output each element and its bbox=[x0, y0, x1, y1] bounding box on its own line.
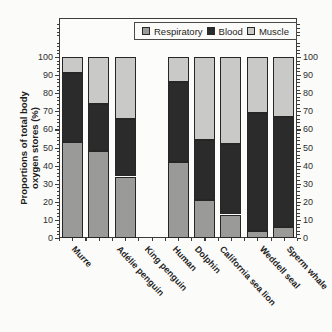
y-minor-tick bbox=[297, 169, 300, 170]
y-minor-tick bbox=[57, 133, 60, 134]
x-tick bbox=[244, 238, 245, 241]
y-minor-tick bbox=[297, 104, 300, 105]
bar-sperm-whale-segment-respiratory bbox=[273, 227, 294, 238]
legend-item-respiratory: Respiratory bbox=[142, 26, 203, 37]
y-major-tick-left-50 bbox=[55, 148, 59, 149]
y-minor-tick bbox=[297, 53, 300, 54]
y-minor-tick bbox=[297, 71, 300, 72]
bar-california-sea-lion-segment-muscle bbox=[220, 57, 241, 144]
bar-dolphin-segment-muscle bbox=[194, 57, 215, 140]
y-minor-tick bbox=[57, 50, 60, 51]
y-minor-tick bbox=[297, 173, 300, 174]
y-minor-tick bbox=[297, 187, 300, 188]
x-tick bbox=[59, 238, 60, 241]
y-minor-tick bbox=[57, 43, 60, 44]
y-major-tick-left-40 bbox=[55, 166, 59, 167]
x-tick bbox=[218, 238, 219, 241]
y-minor-tick bbox=[297, 50, 300, 51]
y-minor-tick bbox=[297, 100, 300, 101]
bar-adelie-penguin-segment-muscle bbox=[88, 57, 109, 104]
x-tick bbox=[85, 238, 86, 241]
y-minor-tick bbox=[57, 86, 60, 87]
y-major-tick-left-80 bbox=[55, 93, 59, 94]
y-minor-tick bbox=[57, 64, 60, 65]
y-minor-tick bbox=[57, 61, 60, 62]
y-minor-tick bbox=[297, 43, 300, 44]
bar-sperm-whale-segment-muscle bbox=[273, 57, 294, 117]
bar-murre-segment-respiratory bbox=[62, 142, 83, 238]
y-minor-tick bbox=[297, 140, 300, 141]
y-tick-label-right-10: 10 bbox=[303, 215, 329, 225]
y-minor-tick bbox=[297, 35, 300, 36]
bar-weddell-seal-segment-respiratory bbox=[247, 231, 268, 238]
y-minor-tick bbox=[297, 195, 300, 196]
y-major-tick-right-80 bbox=[297, 93, 301, 94]
y-minor-tick bbox=[297, 231, 300, 232]
y-minor-tick bbox=[297, 82, 300, 83]
bar-human-segment-muscle bbox=[168, 57, 189, 82]
y-minor-tick bbox=[297, 227, 300, 228]
y-minor-tick bbox=[297, 28, 300, 29]
y-tick-label-left-0: 0 bbox=[29, 233, 53, 243]
y-major-tick-right-50 bbox=[297, 148, 301, 149]
x-tick bbox=[152, 238, 153, 241]
y-tick-label-right-80: 80 bbox=[303, 88, 329, 98]
y-minor-tick bbox=[57, 216, 60, 217]
y-tick-label-right-60: 60 bbox=[303, 124, 329, 134]
y-minor-tick bbox=[297, 86, 300, 87]
y-minor-tick bbox=[57, 176, 60, 177]
y-major-tick-right-100 bbox=[297, 57, 301, 58]
y-major-tick-left-30 bbox=[55, 184, 59, 185]
y-minor-tick bbox=[57, 144, 60, 145]
y-minor-tick bbox=[57, 68, 60, 69]
y-tick-label-left-100: 100 bbox=[29, 52, 53, 62]
y-minor-tick bbox=[297, 158, 300, 159]
y-major-tick-right-10 bbox=[297, 220, 301, 221]
y-tick-label-left-50: 50 bbox=[29, 143, 53, 153]
respiratory-swatch-icon bbox=[142, 27, 150, 35]
bar-murre-segment-muscle bbox=[62, 57, 83, 73]
y-minor-tick bbox=[297, 205, 300, 206]
y-minor-tick bbox=[57, 213, 60, 214]
bar-weddell-seal-segment-muscle bbox=[247, 57, 268, 113]
y-major-tick-right-60 bbox=[297, 129, 301, 130]
y-tick-label-right-50: 50 bbox=[303, 143, 329, 153]
y-tick-label-right-20: 20 bbox=[303, 197, 329, 207]
x-tick bbox=[231, 238, 232, 241]
bar-human-segment-respiratory bbox=[168, 162, 189, 238]
y-minor-tick bbox=[297, 119, 300, 120]
y-minor-tick bbox=[57, 35, 60, 36]
legend-item-muscle: Muscle bbox=[247, 26, 289, 37]
y-minor-tick bbox=[57, 209, 60, 210]
legend-label-muscle: Muscle bbox=[259, 26, 289, 37]
y-minor-tick bbox=[297, 68, 300, 69]
y-minor-tick bbox=[297, 180, 300, 181]
y-tick-label-left-90: 90 bbox=[29, 70, 53, 80]
y-minor-tick bbox=[57, 24, 60, 25]
bar-dolphin-segment-blood bbox=[194, 140, 215, 200]
y-major-tick-right-70 bbox=[297, 111, 301, 112]
y-minor-tick bbox=[57, 108, 60, 109]
y-minor-tick bbox=[57, 53, 60, 54]
y-minor-tick bbox=[297, 97, 300, 98]
y-minor-tick bbox=[297, 64, 300, 65]
x-tick bbox=[257, 238, 258, 241]
y-minor-tick bbox=[297, 213, 300, 214]
x-tick bbox=[138, 238, 139, 241]
bar-dolphin-segment-respiratory bbox=[194, 200, 215, 238]
muscle-swatch-icon bbox=[247, 27, 255, 35]
y-major-tick-left-10 bbox=[55, 220, 59, 221]
y-major-tick-right-90 bbox=[297, 75, 301, 76]
y-major-tick-left-70 bbox=[55, 111, 59, 112]
y-minor-tick bbox=[57, 28, 60, 29]
y-tick-label-left-70: 70 bbox=[29, 106, 53, 116]
y-tick-label-right-30: 30 bbox=[303, 179, 329, 189]
y-minor-tick bbox=[57, 97, 60, 98]
y-minor-tick bbox=[297, 133, 300, 134]
x-tick-label-murre: Murre bbox=[70, 244, 94, 269]
y-tick-label-right-70: 70 bbox=[303, 106, 329, 116]
y-minor-tick bbox=[57, 205, 60, 206]
y-major-tick-right-20 bbox=[297, 202, 301, 203]
y-minor-tick bbox=[297, 61, 300, 62]
y-minor-tick bbox=[297, 198, 300, 199]
